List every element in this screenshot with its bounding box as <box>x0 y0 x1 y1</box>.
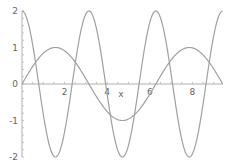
x-tick-label: 6 <box>147 87 153 97</box>
y-tick-label: -2 <box>9 152 18 162</box>
x-tick-label: 8 <box>190 87 196 97</box>
x-tick-label: 2 <box>62 87 68 97</box>
chart: 210-1-22468x <box>0 0 230 168</box>
plot-area: 210-1-22468x <box>0 0 230 168</box>
x-axis-label: x <box>118 89 124 99</box>
y-tick-label: 1 <box>12 43 18 53</box>
y-tick-label: 0 <box>12 79 18 89</box>
y-tick-label: 2 <box>12 6 18 16</box>
y-tick-label: -1 <box>9 116 18 126</box>
